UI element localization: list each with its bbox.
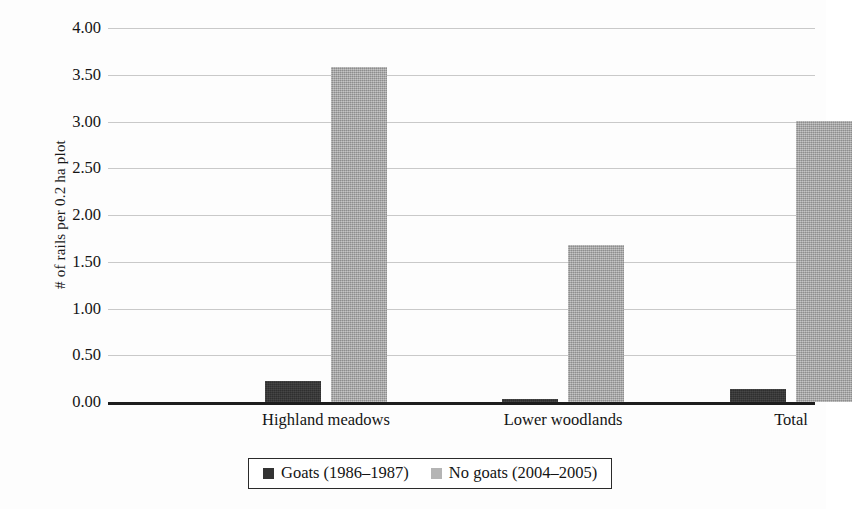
legend-item-2: No goats (2004–2005) (431, 463, 597, 483)
x-axis-label-total: Total (681, 410, 856, 430)
bar-total-series-1 (730, 389, 786, 402)
x-axis-label-highland-meadows: Highland meadows (216, 410, 436, 430)
gridline (108, 355, 815, 356)
y-tick-label: 0.50 (41, 347, 101, 364)
gridline (108, 122, 815, 123)
legend-swatch-icon (431, 468, 442, 479)
legend: Goats (1986–1987)No goats (2004–2005) (248, 458, 612, 489)
y-tick-label: 0.00 (41, 394, 101, 411)
gridline (108, 215, 815, 216)
legend-label: No goats (2004–2005) (449, 463, 597, 483)
y-tick-label: 3.50 (41, 67, 101, 84)
legend-swatch-icon (263, 468, 274, 479)
gridline (108, 75, 815, 76)
bar-total-series-2 (796, 121, 852, 402)
y-tick-label: 3.00 (41, 114, 101, 131)
bar-lower-woodlands-series-2 (568, 245, 624, 402)
y-tick-label: 1.00 (41, 301, 101, 318)
y-tick-label: 1.50 (41, 254, 101, 271)
y-tick-label: 2.00 (41, 207, 101, 224)
x-axis-label-lower-woodlands: Lower woodlands (453, 410, 673, 430)
gridline (108, 262, 815, 263)
gridline (108, 168, 815, 169)
bar-highland-meadows-series-2 (331, 67, 387, 402)
gridline (108, 28, 815, 29)
x-axis-line (108, 402, 815, 405)
bar-highland-meadows-series-1 (265, 381, 321, 403)
y-tick-label: 2.50 (41, 160, 101, 177)
gridline (108, 309, 815, 310)
plot-area: 0.000.501.001.502.002.503.003.504.00 (108, 28, 815, 402)
y-tick-label: 4.00 (41, 20, 101, 37)
legend-label: Goats (1986–1987) (281, 463, 409, 483)
legend-item-1: Goats (1986–1987) (263, 463, 409, 483)
